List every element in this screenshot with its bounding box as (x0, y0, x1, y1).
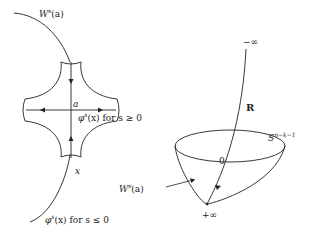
left-arrow-icon (40, 108, 45, 113)
right-panel: −∞ R Sn−k−1 0 Ws(a) +∞ (119, 37, 296, 220)
down-arrow-icon (69, 79, 74, 84)
stable-manifold-label: Ws(a) (39, 7, 64, 19)
flow-backward-label: φs(x) for s ≤ 0 (45, 213, 109, 225)
plus-infinity-label: +∞ (202, 210, 217, 220)
bowl-body (175, 146, 285, 204)
stable-manifold-curve (14, 13, 70, 62)
up-arrow-icon (69, 136, 74, 141)
R-arrow-icon (215, 185, 221, 190)
point-x-label: x (75, 166, 80, 176)
origin-label: 0 (219, 156, 225, 166)
diagram-canvas: Ws(a) a φs(x) for s ≥ 0 x φs(x) for s ≤ … (0, 0, 312, 236)
flow-backward-curve (30, 155, 70, 222)
right-stable-manifold-label: Ws(a) (119, 182, 144, 194)
R-line (207, 49, 246, 204)
sphere-label: Sn−k−1 (268, 131, 296, 143)
minus-infinity-label: −∞ (243, 37, 258, 47)
right-arrow-icon (98, 108, 103, 113)
plus-infinity-point (206, 203, 209, 206)
R-label: R (246, 102, 255, 113)
critical-point-label: a (73, 99, 78, 109)
flow-forward-label: φs(x) for s ≥ 0 (78, 111, 142, 123)
